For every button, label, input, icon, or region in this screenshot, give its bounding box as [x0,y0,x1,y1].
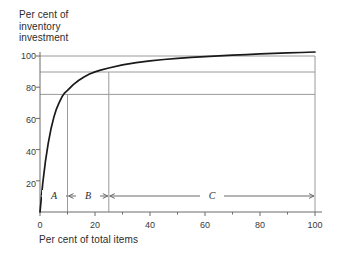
x-axis-label: Per cent of total items [39,234,138,245]
zone-label-a: A [42,190,66,201]
zone-label-b: B [76,190,100,201]
x-tick-marks [40,212,315,216]
pareto-curve [40,52,315,212]
chart-container: Per cent of inventory investment 100 80 … [0,0,337,256]
y-tick-marks [36,56,40,181]
chart-plot-svg [0,0,337,256]
zone-label-c: C [200,190,224,201]
